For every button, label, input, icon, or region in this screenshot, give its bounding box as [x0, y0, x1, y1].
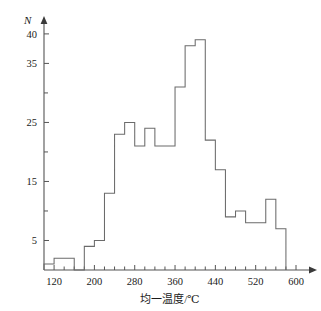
y-axis-label: N — [23, 14, 32, 26]
y-axis-arrow-icon — [41, 16, 48, 24]
x-tick-label: 600 — [288, 276, 304, 287]
x-tick-label: 280 — [127, 276, 143, 287]
x-tick-label: 200 — [87, 276, 103, 287]
y-tick-label: 15 — [27, 176, 38, 187]
y-tick-label: 35 — [27, 58, 38, 69]
x-axis-arrow-icon — [309, 267, 317, 274]
x-tick-label: 520 — [248, 276, 264, 287]
chart-canvas: 515253540120200280360440520600N均一温度/℃ — [0, 0, 321, 311]
histogram-chart: 515253540120200280360440520600N均一温度/℃ — [0, 0, 321, 311]
y-tick-label: 40 — [27, 29, 38, 40]
x-axis-label: 均一温度/℃ — [140, 292, 199, 305]
y-tick-label: 5 — [32, 235, 37, 246]
x-tick-label: 120 — [46, 276, 62, 287]
x-tick-label: 440 — [207, 276, 223, 287]
x-tick-label: 360 — [167, 276, 183, 287]
histogram-outline — [44, 40, 286, 270]
y-tick-label: 25 — [27, 117, 38, 128]
